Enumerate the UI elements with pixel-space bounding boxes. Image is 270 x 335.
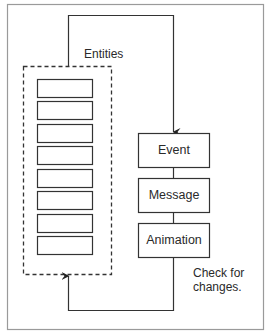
loop-note-line2: changes. xyxy=(193,280,244,294)
entity-slot-7 xyxy=(38,215,93,233)
loop-arrow-to-entities xyxy=(69,258,174,311)
entity-slot-3 xyxy=(38,125,93,143)
entity-slot-6 xyxy=(38,192,93,210)
entity-slot-2 xyxy=(38,102,93,120)
entity-slot-1 xyxy=(38,80,93,98)
message-label: Message xyxy=(138,188,210,202)
event-label: Event xyxy=(138,143,210,157)
loop-note: Check for changes. xyxy=(193,266,244,294)
entity-slot-5 xyxy=(38,170,93,188)
animation-label: Animation xyxy=(138,233,210,247)
loop-note-line1: Check for xyxy=(193,266,244,280)
entities-label: Entities xyxy=(84,47,123,61)
entity-slot-4 xyxy=(38,147,93,165)
flow-arrow-to-event xyxy=(69,16,174,133)
entity-list xyxy=(38,80,93,255)
entity-slot-8 xyxy=(38,237,93,255)
